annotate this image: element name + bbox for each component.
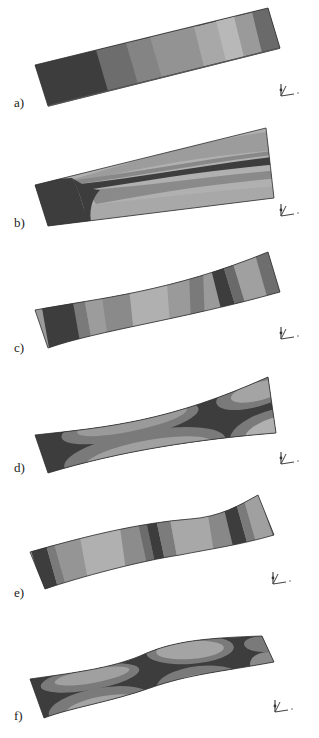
panel-label-e: e) — [14, 585, 24, 601]
panel-label-f: f) — [14, 708, 23, 724]
mode-shape-e — [0, 485, 319, 610]
mode-shape-f — [0, 608, 319, 738]
panel-label-b: b) — [14, 215, 25, 231]
panel-b: b) — [0, 120, 319, 240]
panel-d: d) — [0, 365, 319, 485]
axis-triad-icon — [268, 568, 294, 588]
mode-shape-b — [0, 120, 319, 240]
panel-label-c: c) — [14, 340, 24, 356]
axis-triad-icon — [276, 323, 302, 343]
axis-triad-icon — [276, 448, 302, 468]
axis-triad-icon — [270, 696, 296, 716]
panel-a: a) — [0, 0, 319, 120]
mode-shape-d — [0, 365, 319, 485]
mode-shape-c — [0, 240, 319, 365]
panel-label-d: d) — [14, 460, 25, 476]
panel-f: f) — [0, 608, 319, 738]
mode-shape-a — [0, 0, 319, 120]
axis-triad-icon — [276, 200, 302, 220]
axis-triad-icon — [276, 80, 302, 100]
panel-c: c) — [0, 240, 319, 365]
panel-label-a: a) — [14, 95, 24, 111]
panel-e: e) — [0, 485, 319, 610]
